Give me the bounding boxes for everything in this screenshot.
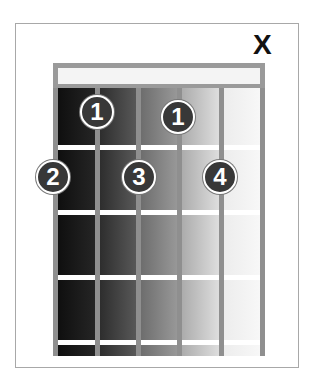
finger-dot: 2 (36, 160, 70, 194)
finger-dot: 1 (161, 100, 195, 134)
muted-string-marker: X (253, 30, 272, 60)
string-1 (53, 88, 58, 356)
fretboard-column-2 (97, 88, 138, 356)
finger-dot: 3 (122, 160, 156, 194)
string-3 (136, 88, 141, 356)
nut (53, 63, 265, 88)
string-5 (219, 88, 224, 356)
fretboard-column-1 (55, 88, 97, 356)
fret-1 (57, 145, 261, 150)
fretboard (53, 88, 265, 356)
fretboard-column-5 (221, 88, 262, 356)
finger-dot: 4 (203, 160, 237, 194)
fret-4 (57, 340, 261, 345)
string-6 (260, 88, 265, 356)
finger-dot: 1 (80, 95, 114, 129)
fret-3 (57, 275, 261, 280)
nut-inner (58, 68, 260, 84)
fret-2 (57, 210, 261, 215)
